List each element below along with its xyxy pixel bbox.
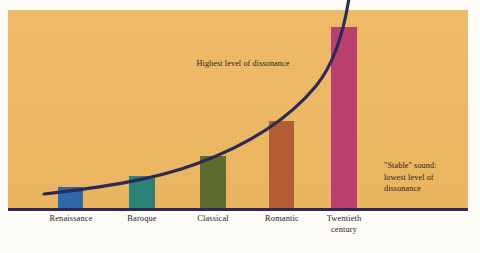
annotation-stable-sound: "Stable" sound: lowest level of dissonan…	[384, 160, 470, 195]
category-label-classical: Classical	[177, 214, 249, 225]
baseline-axis	[8, 208, 468, 211]
category-label-baroque: Baroque	[106, 214, 178, 225]
category-label-renaissance: Renaissance	[34, 214, 108, 225]
category-label-twentieth: Twentieth century	[307, 214, 381, 236]
annotation-highest-dissonance: Highest level of dissonance	[148, 58, 338, 70]
category-labels: RenaissanceBaroqueClassicalRomanticTwent…	[0, 214, 480, 253]
dissonance-chart-figure: Highest level of dissonance "Stable" sou…	[0, 0, 480, 253]
